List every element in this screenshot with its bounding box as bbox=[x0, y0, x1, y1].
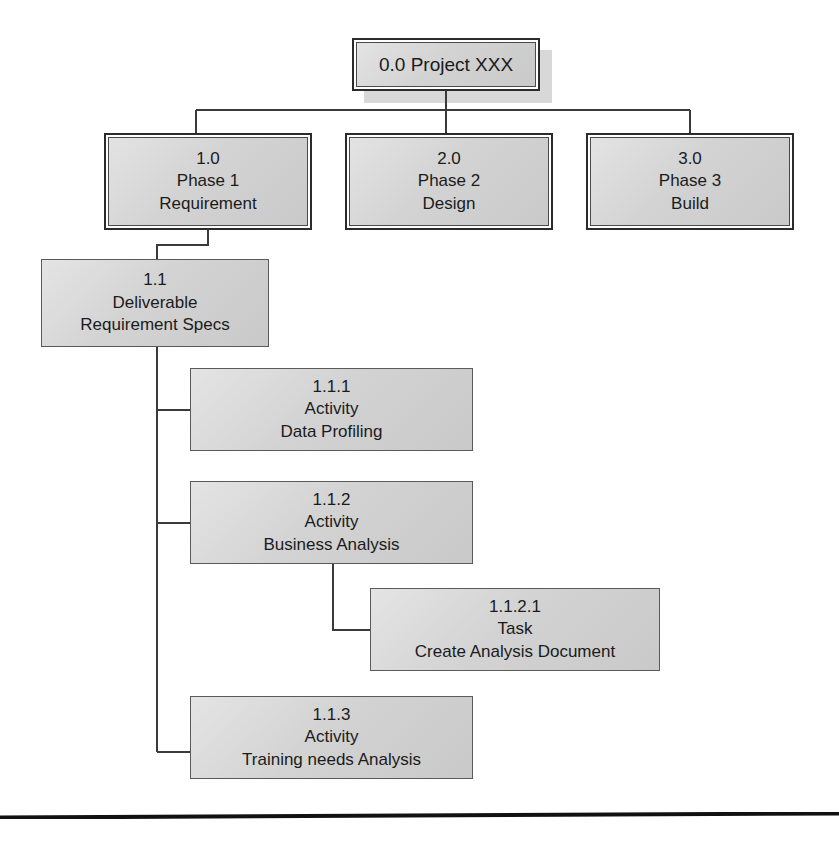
node-activity-1-1-2-number: 1.1.2 bbox=[313, 489, 351, 511]
node-task-1-1-2-1[interactable]: 1.1.2.1 Task Create Analysis Document bbox=[370, 588, 660, 671]
node-activity-1-1-3-type: Activity bbox=[305, 726, 359, 748]
node-phase-2-0-type: Phase 2 bbox=[418, 170, 480, 192]
node-activity-1-1-3-name: Training needs Analysis bbox=[242, 749, 421, 771]
node-activity-1-1-2[interactable]: 1.1.2 Activity Business Analysis bbox=[190, 481, 473, 564]
node-phase-2-0[interactable]: 2.0 Phase 2 Design bbox=[345, 133, 553, 230]
node-deliverable-1-1[interactable]: 1.1 Deliverable Requirement Specs bbox=[41, 259, 269, 347]
node-project-0-0[interactable]: 0.0 Project XXX bbox=[352, 38, 540, 91]
node-activity-1-1-1[interactable]: 1.1.1 Activity Data Profiling bbox=[190, 368, 473, 451]
edge-activity2-task1 bbox=[333, 564, 370, 630]
node-phase-3-0-number: 3.0 bbox=[678, 148, 702, 170]
node-deliverable-1-1-name: Requirement Specs bbox=[80, 314, 229, 336]
node-activity-1-1-2-type: Activity bbox=[305, 511, 359, 533]
node-phase-1-0-name: Requirement bbox=[159, 193, 256, 215]
node-task-1-1-2-1-type: Task bbox=[498, 618, 533, 640]
node-task-1-1-2-1-number: 1.1.2.1 bbox=[489, 596, 541, 618]
edge-phase1-deliverable bbox=[157, 230, 208, 259]
node-phase-1-0-number: 1.0 bbox=[196, 148, 220, 170]
node-phase-3-0-type: Phase 3 bbox=[659, 170, 721, 192]
node-activity-1-1-1-name: Data Profiling bbox=[280, 421, 382, 443]
node-phase-3-0[interactable]: 3.0 Phase 3 Build bbox=[586, 133, 794, 230]
node-deliverable-1-1-number: 1.1 bbox=[143, 269, 167, 291]
node-phase-2-0-name: Design bbox=[423, 193, 476, 215]
node-activity-1-1-3[interactable]: 1.1.3 Activity Training needs Analysis bbox=[190, 696, 473, 779]
node-activity-1-1-1-number: 1.1.1 bbox=[313, 376, 351, 398]
node-activity-1-1-3-number: 1.1.3 bbox=[313, 704, 351, 726]
node-phase-2-0-number: 2.0 bbox=[437, 148, 461, 170]
wbs-diagram-canvas: 0.0 Project XXX 1.0 Phase 1 Requirement … bbox=[0, 0, 839, 847]
node-phase-1-0[interactable]: 1.0 Phase 1 Requirement bbox=[104, 133, 312, 230]
node-activity-1-1-2-name: Business Analysis bbox=[263, 534, 399, 556]
node-task-1-1-2-1-name: Create Analysis Document bbox=[415, 641, 615, 663]
node-project-label: 0.0 Project XXX bbox=[379, 52, 513, 77]
node-phase-1-0-type: Phase 1 bbox=[177, 170, 239, 192]
node-phase-3-0-name: Build bbox=[671, 193, 709, 215]
footer-rule bbox=[0, 812, 839, 819]
node-activity-1-1-1-type: Activity bbox=[305, 398, 359, 420]
node-deliverable-1-1-type: Deliverable bbox=[112, 292, 197, 314]
